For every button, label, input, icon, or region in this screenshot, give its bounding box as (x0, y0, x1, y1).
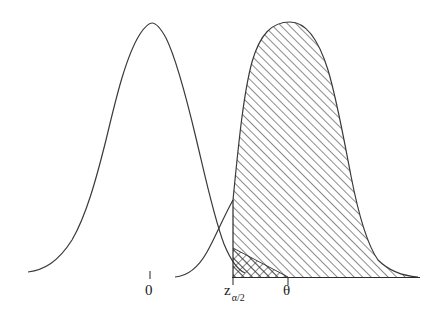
critical-value-subscript: α/2 (232, 292, 245, 303)
distribution-plot-svg (0, 0, 441, 328)
axis-label-theta: θ (283, 283, 290, 298)
axis-label-zero: 0 (145, 283, 153, 298)
axis-label-critical-value: zα/2 (224, 283, 244, 301)
statistical-power-figure: 0 zα/2 θ (0, 0, 441, 328)
power-region-shading (228, 14, 424, 280)
critical-value-base: z (224, 282, 231, 298)
null-distribution-curve (28, 23, 245, 273)
